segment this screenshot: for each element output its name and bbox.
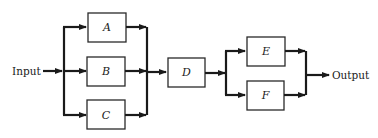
block-b: B [87,57,125,86]
block-f: F [247,81,284,110]
input-label: Input [12,65,41,77]
block-d-label: D [181,66,191,79]
block-b-label: B [101,65,110,78]
block-e: E [247,37,285,66]
block-a-label: A [102,21,111,34]
block-f-label: F [261,89,270,102]
block-diagram: Input A B C D E F Output [0,0,378,138]
block-c: C [87,100,125,129]
output-label: Output [332,69,370,81]
block-a: A [88,13,126,42]
block-c-label: C [102,109,111,122]
block-d: D [168,58,205,87]
block-e-label: E [261,45,270,58]
